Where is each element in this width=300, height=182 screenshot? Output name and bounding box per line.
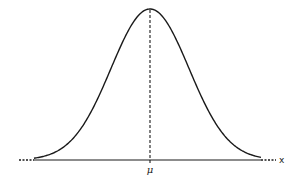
x-axis-label: x: [279, 155, 285, 165]
mean-label: μ: [147, 164, 154, 175]
bell-curve-chart: μ x: [0, 0, 300, 182]
density-curve: [34, 9, 261, 158]
